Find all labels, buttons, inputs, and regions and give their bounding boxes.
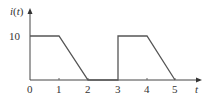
x-axis-label: t bbox=[195, 83, 199, 95]
y-tick-label: 10 bbox=[9, 30, 21, 42]
x-axis-arrow-icon bbox=[196, 78, 202, 83]
x-tick-label: 2 bbox=[85, 83, 91, 95]
x-tick-label: 0 bbox=[27, 83, 33, 95]
waveform-line bbox=[30, 36, 175, 80]
y-axis-arrow-icon bbox=[28, 8, 33, 14]
y-axis-label: i(t) bbox=[10, 5, 24, 18]
x-tick-label: 3 bbox=[115, 83, 121, 95]
x-tick-label: 4 bbox=[144, 83, 150, 95]
x-tick-label: 1 bbox=[56, 83, 62, 95]
chart: i(t) 10 0 1 2 3 4 5 t bbox=[0, 0, 211, 98]
x-tick-label: 5 bbox=[172, 83, 178, 95]
